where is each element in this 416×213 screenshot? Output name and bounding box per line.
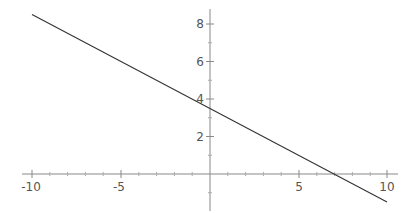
x-tick-label: -5 (113, 180, 125, 194)
y-tick-label: 2 (196, 130, 204, 144)
y-tick-label: 8 (196, 17, 204, 31)
plot-canvas: -10 -5 5 10 2 4 6 8 (0, 0, 416, 213)
x-tick-label: 10 (379, 180, 394, 194)
x-tick-label: 5 (295, 180, 303, 194)
line-plot: -10 -5 5 10 2 4 6 8 (0, 0, 416, 213)
y-tick-label: 6 (196, 55, 204, 69)
x-tick-label: -10 (21, 180, 41, 194)
